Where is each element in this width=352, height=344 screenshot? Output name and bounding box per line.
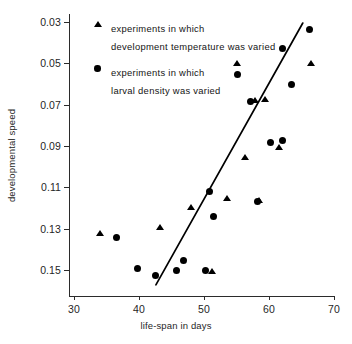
y-axis-line	[69, 14, 70, 297]
y-tick	[64, 187, 69, 188]
data-point	[202, 267, 209, 274]
data-point	[113, 234, 120, 241]
x-tick-label: 40	[119, 304, 159, 314]
legend-label: experiments in which larval density was …	[111, 67, 221, 96]
data-point	[254, 198, 261, 205]
data-point	[152, 272, 159, 279]
y-tick-label: 0.15	[40, 265, 61, 275]
data-point	[307, 60, 315, 66]
y-tick	[64, 63, 69, 64]
data-point	[210, 213, 217, 220]
y-tick-label: 0.05	[40, 58, 61, 68]
y-tick	[64, 105, 69, 106]
data-point	[267, 139, 274, 146]
y-tick-label: 0.03	[40, 17, 61, 27]
x-tick-label: 30	[54, 304, 94, 314]
x-tick	[204, 296, 205, 300]
x-tick-label: 60	[249, 304, 289, 314]
x-axis-title: life-span in days	[0, 320, 352, 331]
x-tick-label: 70	[314, 304, 352, 314]
scatter-plot-figure: 0.030.050.070.090.110.130.15 3040506070 …	[0, 0, 352, 344]
data-point	[134, 265, 141, 272]
data-point	[173, 267, 180, 274]
data-point	[241, 154, 249, 160]
legend: experiments in which development tempera…	[92, 18, 302, 106]
y-tick-label: 0.07	[40, 100, 61, 110]
triangle-marker-icon	[94, 21, 102, 27]
legend-entry: experiments in which development tempera…	[92, 18, 302, 54]
data-point	[223, 195, 231, 201]
circle-marker-icon	[94, 65, 101, 72]
x-tick	[139, 296, 140, 300]
y-tick-label: 0.11	[41, 182, 61, 192]
legend-label: experiments in which development tempera…	[111, 23, 275, 52]
x-axis-line	[69, 296, 335, 297]
y-tick-label: 0.13	[40, 224, 61, 234]
y-tick	[64, 229, 69, 230]
data-point	[279, 137, 286, 144]
data-point	[187, 204, 195, 210]
data-point	[96, 230, 104, 236]
y-tick	[64, 22, 69, 23]
x-tick	[334, 296, 335, 300]
data-point	[306, 26, 313, 33]
y-axis-title: developmental speed	[6, 86, 17, 226]
data-point	[156, 224, 164, 230]
y-tick	[64, 270, 69, 271]
x-tick	[74, 296, 75, 300]
x-tick	[269, 296, 270, 300]
legend-entry: experiments in which larval density was …	[92, 62, 302, 98]
y-tick-label: 0.09	[40, 141, 61, 151]
data-point	[275, 144, 283, 150]
y-tick	[64, 146, 69, 147]
x-tick-label: 50	[184, 304, 224, 314]
data-point	[206, 188, 213, 195]
data-point	[180, 257, 187, 264]
